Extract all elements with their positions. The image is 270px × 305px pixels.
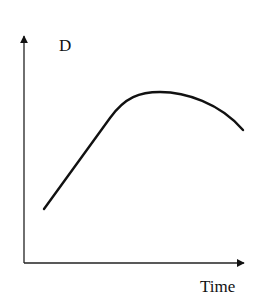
chart-canvas (0, 0, 270, 305)
y-axis-label: D (59, 36, 71, 56)
x-axis-label: Time (200, 277, 235, 297)
data-curve (44, 92, 243, 209)
